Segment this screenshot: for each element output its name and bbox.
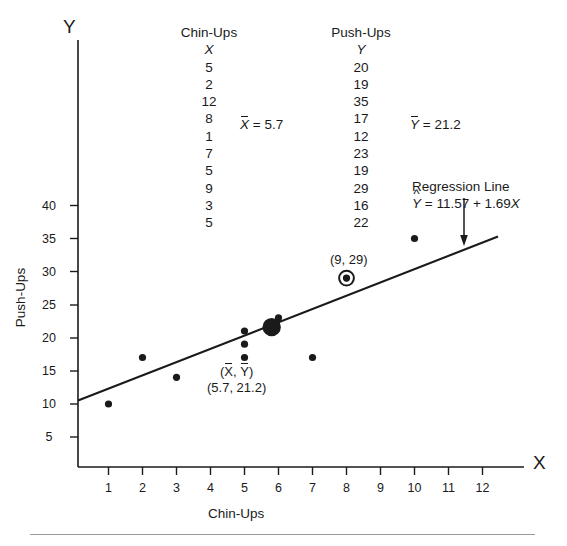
xbar-equals: = (253, 117, 261, 132)
y-tick-label-10: 10 (36, 397, 62, 411)
mean-point-label: (X, Y) (5.7, 21.2) (207, 364, 266, 395)
mean-label-symbolic: (X, Y) (207, 364, 266, 380)
x-axis-title: Chin-Ups (208, 506, 264, 521)
ybar-annotation: Y = 21.2 (410, 117, 461, 132)
table-column-y: 20 19 35 17 12 23 19 29 16 22 (302, 59, 420, 232)
mean-point-marker (263, 318, 281, 336)
mean-comma: , (233, 364, 237, 379)
table-cell-y: 20 (302, 59, 420, 76)
yhat-symbol: Y (412, 195, 421, 212)
x-axis-ticks (109, 467, 483, 475)
table-cell-x: 7 (150, 145, 268, 162)
data-point (241, 354, 248, 361)
table-cell-y: 19 (302, 76, 420, 93)
data-point (173, 374, 180, 381)
table-cell-y: 23 (302, 145, 420, 162)
data-point (241, 327, 248, 334)
xbar-value: 5.7 (264, 117, 283, 132)
xbar-symbol: X (240, 117, 249, 132)
table-cell-x: 5 (150, 162, 268, 179)
ybar-symbol: Y (410, 117, 419, 132)
y-axis-title: Push-Ups (13, 268, 28, 327)
regression-annotation: Regression Line Y = 11.57 + 1.69X (412, 178, 520, 212)
table-cell-x: 3 (150, 197, 268, 214)
scatter-plot-figure: 5 10 15 20 25 30 35 40 1 2 3 4 5 6 7 8 9… (0, 0, 567, 546)
table-cell-y: 12 (302, 128, 420, 145)
mean-paren-close: ) (249, 364, 253, 379)
table-symbol-y: Y (302, 41, 420, 58)
data-table: Chin-Ups Push-Ups X Y 5 2 12 8 1 7 5 9 3… (150, 24, 420, 232)
x-tick-label-8: 8 (334, 481, 360, 495)
x-tick-label-1: 1 (96, 481, 122, 495)
x-tick-label-6: 6 (266, 481, 292, 495)
x-tick-label-4: 4 (198, 481, 224, 495)
y-tick-label-35: 35 (36, 232, 62, 246)
x-tick-label-12: 12 (470, 481, 496, 495)
data-point (241, 341, 248, 348)
y-axis-ticks (70, 206, 78, 438)
table-header-pushups: Push-Ups (302, 24, 420, 41)
table-cell-x: 12 (150, 93, 268, 110)
mean-ybar-symbol: Y (240, 364, 249, 380)
y-tick-label-5: 5 (36, 430, 62, 444)
point-label-9-29: (9, 29) (330, 252, 368, 267)
x-tick-label-3: 3 (164, 481, 190, 495)
x-tick-label-10: 10 (402, 481, 428, 495)
table-cell-y: 17 (302, 110, 420, 127)
regression-title: Regression Line (412, 178, 520, 195)
xbar-annotation: X = 5.7 (240, 117, 283, 132)
x-tick-label-9: 9 (368, 481, 394, 495)
table-cell-x: 5 (150, 214, 268, 231)
table-symbol-row: X Y (150, 41, 420, 58)
table-symbol-x: X (150, 41, 268, 58)
ybar-equals: = (423, 117, 431, 132)
table-column-x: 5 2 12 8 1 7 5 9 3 5 (150, 59, 268, 232)
regression-equation-variable: X (511, 196, 520, 211)
x-axis-letter: X (533, 452, 546, 474)
table-cell-y: 35 (302, 93, 420, 110)
y-tick-label-25: 25 (36, 298, 62, 312)
table-cell-x: 5 (150, 59, 268, 76)
ybar-value: 21.2 (434, 117, 460, 132)
regression-equation-body: = 11.57 + 1.69 (425, 196, 511, 211)
mean-label-numeric: (5.7, 21.2) (207, 380, 266, 396)
y-tick-label-20: 20 (36, 331, 62, 345)
x-tick-label-5: 5 (232, 481, 258, 495)
data-point (105, 400, 112, 407)
data-point (309, 354, 316, 361)
table-body: 5 2 12 8 1 7 5 9 3 5 20 19 35 17 12 23 1… (150, 59, 420, 232)
regression-equation: Y = 11.57 + 1.69X (412, 195, 520, 212)
mean-xbar-symbol: X (224, 364, 233, 380)
data-point (139, 354, 146, 361)
table-cell-y: 22 (302, 214, 420, 231)
table-cell-y: 19 (302, 162, 420, 179)
data-point (411, 235, 418, 242)
table-cell-y: 16 (302, 197, 420, 214)
x-tick-label-2: 2 (130, 481, 156, 495)
footer-divider (30, 534, 535, 535)
y-tick-label-30: 30 (36, 265, 62, 279)
table-cell-y: 29 (302, 180, 420, 197)
y-tick-label-40: 40 (36, 199, 62, 213)
x-tick-label-7: 7 (300, 481, 326, 495)
table-header-row: Chin-Ups Push-Ups (150, 24, 420, 41)
table-header-chinups: Chin-Ups (150, 24, 268, 41)
highlighted-point-9-29 (339, 271, 354, 286)
regression-line (78, 237, 498, 401)
x-tick-label-11: 11 (436, 481, 462, 495)
table-cell-x: 2 (150, 76, 268, 93)
y-tick-label-15: 15 (36, 364, 62, 378)
y-axis-letter: Y (63, 16, 76, 38)
table-cell-x: 9 (150, 180, 268, 197)
